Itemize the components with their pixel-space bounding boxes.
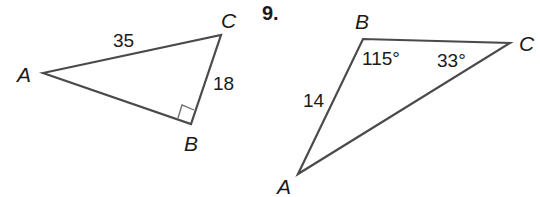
angle-label-c: 33° — [437, 50, 466, 71]
side-length-bc: 18 — [213, 73, 234, 94]
vertex-label-b: B — [184, 132, 198, 155]
problem-number: 9. — [262, 2, 279, 24]
triangle-abc-problem-9: 9. B C A 115° 33° 14 — [262, 2, 535, 197]
vertex-label-c: C — [519, 32, 535, 55]
triangle-abc-right: A C B 35 18 — [15, 9, 237, 155]
vertex-label-b: B — [355, 10, 369, 33]
side-length-ab: 14 — [303, 90, 325, 111]
right-angle-marker — [178, 105, 194, 118]
side-length-ac: 35 — [113, 30, 134, 51]
vertex-label-c: C — [221, 9, 237, 32]
vertex-label-a: A — [15, 63, 31, 86]
vertex-label-a: A — [275, 175, 291, 197]
triangle-outline — [298, 39, 510, 174]
angle-label-b: 115° — [362, 48, 400, 69]
geometry-diagram: A C B 35 18 9. B C A 115° 33° 14 — [0, 0, 540, 197]
